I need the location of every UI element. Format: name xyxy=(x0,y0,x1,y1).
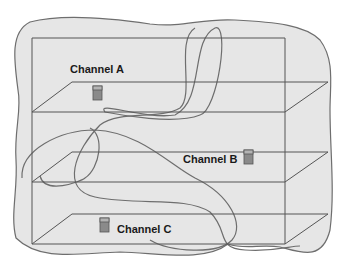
diagram-canvas: Channel A Channel B Channel C xyxy=(0,0,348,273)
channel-b-label: Channel B xyxy=(183,154,237,165)
channel-a-device-icon xyxy=(93,86,102,100)
channel-c-label: Channel C xyxy=(117,224,171,235)
channel-a-label: Channel A xyxy=(70,64,124,75)
coverage-blob-outer xyxy=(14,18,332,256)
channel-c-device-icon xyxy=(100,218,109,232)
channel-b-device-icon xyxy=(244,150,253,164)
channel-diagram-svg xyxy=(0,0,348,273)
